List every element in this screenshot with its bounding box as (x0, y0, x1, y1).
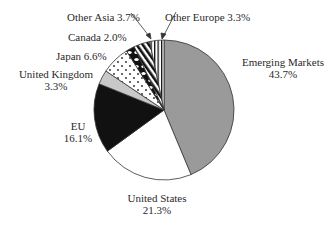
label-united-states-name: United States (107, 192, 207, 204)
label-united-kingdom: United Kingdom 3.3% (16, 68, 96, 92)
label-united-kingdom-pct: 3.3% (16, 80, 96, 92)
label-eu: EU 16.1% (60, 120, 96, 144)
label-eu-name: EU (60, 120, 96, 132)
label-united-kingdom-name: United Kingdom (16, 68, 96, 80)
label-canada: Canada 2.0% (68, 31, 127, 43)
label-united-states: United States 21.3% (107, 192, 207, 216)
label-emerging-markets-pct: 43.7% (238, 68, 328, 80)
label-eu-pct: 16.1% (60, 132, 96, 144)
label-other-asia: Other Asia 3.7% (67, 11, 140, 23)
label-japan: Japan 6.6% (56, 50, 107, 62)
pie-slices (94, 40, 234, 180)
label-emerging-markets: Emerging Markets 43.7% (238, 56, 328, 80)
label-other-europe: Other Europe 3.3% (165, 11, 250, 23)
label-united-states-pct: 21.3% (107, 204, 207, 216)
label-emerging-markets-name: Emerging Markets (238, 56, 328, 68)
